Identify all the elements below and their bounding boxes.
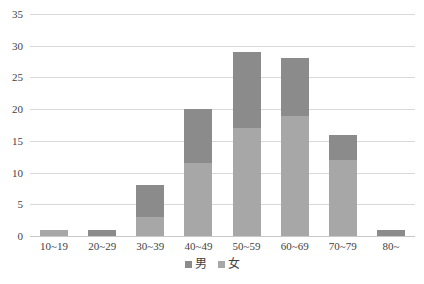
x-axis-tick-label: 70~79 xyxy=(319,240,367,253)
axis-baseline xyxy=(30,236,415,237)
bar-stack[interactable] xyxy=(329,135,357,236)
legend-item[interactable]: 女 xyxy=(218,258,240,270)
y-axis-tick-label: 15 xyxy=(12,135,23,146)
bar-stack[interactable] xyxy=(281,58,309,236)
y-axis-tick-label: 0 xyxy=(18,231,24,242)
legend-item[interactable]: 男 xyxy=(185,258,207,270)
x-axis-tick-label: 50~59 xyxy=(223,240,271,253)
bar-segment-male[interactable] xyxy=(281,58,309,115)
legend-label: 男 xyxy=(195,258,207,270)
bar-segment-male[interactable] xyxy=(329,135,357,160)
bar-group[interactable] xyxy=(126,14,174,236)
bar-group[interactable] xyxy=(319,14,367,236)
bar-group[interactable] xyxy=(78,14,126,236)
bar-stack[interactable] xyxy=(377,230,405,236)
bar-stack[interactable] xyxy=(40,230,68,236)
bar-stack[interactable] xyxy=(233,52,261,236)
x-axis-tick-label: 40~49 xyxy=(174,240,222,253)
chart-legend: 男女 xyxy=(0,258,424,270)
y-axis-tick-label: 5 xyxy=(18,199,24,210)
y-axis-tick-label: 10 xyxy=(12,167,23,178)
bar-segment-female[interactable] xyxy=(40,230,68,236)
x-axis-tick-label: 10~19 xyxy=(30,240,78,253)
bar-group[interactable] xyxy=(174,14,222,236)
bar-segment-female[interactable] xyxy=(281,116,309,237)
bar-group[interactable] xyxy=(30,14,78,236)
y-axis-tick-label: 35 xyxy=(12,9,23,20)
x-axis-tick-label: 60~69 xyxy=(271,240,319,253)
bar-segment-male[interactable] xyxy=(136,185,164,217)
bar-segment-female[interactable] xyxy=(136,217,164,236)
bar-segment-male[interactable] xyxy=(377,230,405,236)
legend-label: 女 xyxy=(228,258,240,270)
bar-segment-female[interactable] xyxy=(184,163,212,236)
bar-segment-female[interactable] xyxy=(329,160,357,236)
x-axis: 10~1920~2930~3940~4950~5960~6970~7980~ xyxy=(30,240,415,253)
y-axis-tick-label: 20 xyxy=(12,104,23,115)
bar-segment-male[interactable] xyxy=(88,230,116,236)
x-axis-tick-label: 80~ xyxy=(367,240,415,253)
bar-group[interactable] xyxy=(271,14,319,236)
bar-group[interactable] xyxy=(223,14,271,236)
bar-stack[interactable] xyxy=(184,109,212,236)
y-axis-tick-label: 25 xyxy=(12,72,23,83)
x-axis-tick-label: 30~39 xyxy=(126,240,174,253)
legend-swatch-icon xyxy=(185,261,192,268)
legend-swatch-icon xyxy=(218,261,225,268)
bar-segment-male[interactable] xyxy=(184,109,212,163)
bars-layer xyxy=(30,14,415,236)
y-axis-tick-label: 30 xyxy=(12,40,23,51)
bar-stack[interactable] xyxy=(136,185,164,236)
bar-segment-male[interactable] xyxy=(233,52,261,128)
bar-segment-female[interactable] xyxy=(233,128,261,236)
bar-stack[interactable] xyxy=(88,230,116,236)
plot-area: 05101520253035 xyxy=(30,14,415,236)
bar-group[interactable] xyxy=(367,14,415,236)
x-axis-tick-label: 20~29 xyxy=(78,240,126,253)
stacked-bar-chart: 05101520253035 10~1920~2930~3940~4950~59… xyxy=(0,0,424,284)
